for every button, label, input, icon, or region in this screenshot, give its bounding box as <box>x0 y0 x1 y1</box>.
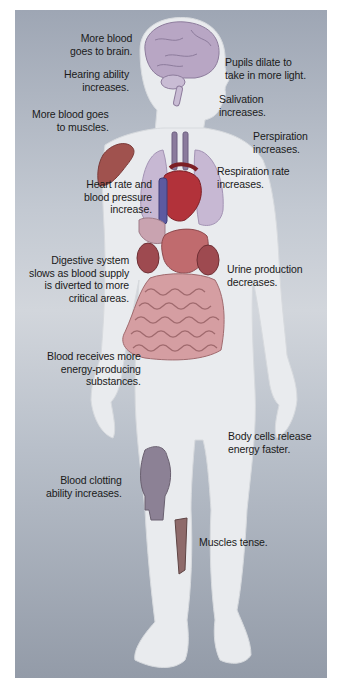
label-body-cells: Body cells release energy faster. <box>228 430 311 455</box>
label-pupils: Pupils dilate to take in more light. <box>225 56 306 81</box>
label-urine: Urine production decreases. <box>227 263 302 288</box>
label-muscles-blood: More blood goes to muscles. <box>32 108 109 133</box>
label-digestive: Digestive system slows as blood supply i… <box>29 254 129 304</box>
label-heart: Heart rate and blood pressure increase. <box>84 178 152 216</box>
label-hearing: Hearing ability increases. <box>64 68 129 93</box>
label-perspiration: Perspiration increases. <box>253 130 308 155</box>
label-clotting: Blood clotting ability increases. <box>46 474 122 499</box>
label-respiration: Respiration rate increases. <box>217 165 290 190</box>
diagram-panel: More blood goes to brain. Hearing abilit… <box>15 10 327 678</box>
label-muscles-tense: Muscles tense. <box>199 536 268 549</box>
label-brain: More blood goes to brain. <box>70 32 132 57</box>
label-energy-substances: Blood receives more energy-producing sub… <box>47 350 141 388</box>
label-salivation: Salivation increases. <box>219 93 266 118</box>
